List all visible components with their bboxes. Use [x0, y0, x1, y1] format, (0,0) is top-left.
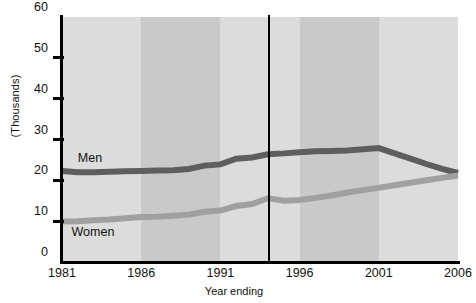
series-label-women: Women	[72, 225, 115, 239]
plot-area	[62, 17, 458, 262]
x-tick-label: 1986	[106, 266, 176, 280]
reference-line	[268, 15, 270, 264]
x-axis-title: Year ending	[0, 285, 468, 297]
y-tick-mark	[53, 179, 64, 182]
y-tick-label: 10	[0, 204, 48, 218]
series-lines	[62, 17, 458, 262]
y-tick-label: 20	[0, 163, 48, 177]
y-tick-label: 0	[0, 245, 48, 259]
y-tick-label: 40	[0, 82, 48, 96]
x-tick-label: 2006	[423, 266, 476, 280]
y-tick-label: 30	[0, 123, 48, 137]
x-tick-label: 1981	[27, 266, 97, 280]
x-tick-label: 1996	[265, 266, 335, 280]
series-label-men: Men	[78, 151, 102, 165]
series-line-women	[62, 175, 458, 221]
y-tick-mark	[53, 97, 64, 100]
y-tick-label: 50	[0, 41, 48, 55]
x-axis	[60, 261, 460, 264]
y-tick-mark	[53, 220, 64, 223]
y-tick-mark	[53, 56, 64, 59]
y-tick-mark	[53, 138, 64, 141]
x-tick-label: 2001	[344, 266, 414, 280]
series-line-men	[62, 148, 458, 173]
y-axis-title: (Thousands)	[9, 46, 21, 166]
x-tick-label: 1991	[185, 266, 255, 280]
y-tick-label: 60	[0, 0, 48, 14]
